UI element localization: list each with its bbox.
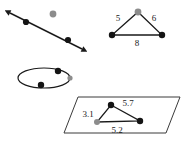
figure-panel: 5 6 8 3.1 5.7 5.2 bbox=[0, 0, 182, 142]
inner-triangle-edge-label-bottom: 5.2 bbox=[111, 125, 122, 135]
isolated-point-gray bbox=[50, 11, 57, 18]
ellipse-point-black-2 bbox=[38, 82, 44, 88]
triangle-vertex-apex bbox=[135, 9, 142, 16]
geometry-diagram: 5 6 8 3.1 5.7 5.2 bbox=[0, 0, 182, 142]
triangle-vertex-right bbox=[159, 32, 165, 38]
line-point-black-1 bbox=[23, 19, 29, 25]
triangle-vertex-left bbox=[109, 32, 115, 38]
inner-triangle-vertex-right bbox=[137, 118, 143, 124]
inner-triangle-edge-label-left: 3.1 bbox=[82, 109, 93, 119]
inner-triangle-vertex-left bbox=[94, 119, 100, 125]
triangle-edge-label-right: 6 bbox=[152, 13, 157, 23]
triangle-edge-label-base: 8 bbox=[135, 38, 140, 48]
line-point-black-2 bbox=[65, 37, 71, 43]
ellipse-point-gray bbox=[67, 75, 72, 80]
inner-triangle-vertex-top bbox=[108, 102, 114, 108]
inner-triangle-edge-label-right: 5.7 bbox=[122, 98, 134, 108]
triangle-edge-label-left: 5 bbox=[116, 13, 121, 23]
ellipse-point-black-1 bbox=[55, 68, 61, 74]
